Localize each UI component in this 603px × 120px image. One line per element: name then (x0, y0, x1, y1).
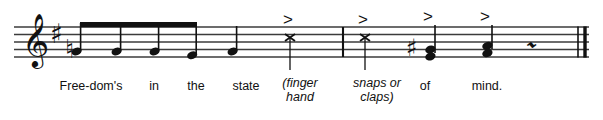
note-8-sharp-accidental: ♯ (406, 34, 418, 62)
natural-accidental: ♮ (65, 34, 74, 64)
lyric-syllable-5: of (420, 79, 430, 93)
lyric-syllable-6: mind. (472, 79, 503, 93)
accent-mark-3: > (423, 7, 433, 26)
performance-note-snaps-claps-line2: claps) (353, 90, 401, 104)
lyric-syllable-3: the (187, 79, 204, 93)
performance-note-finger-hand: (finger hand (282, 76, 317, 104)
performance-note-finger-hand-line1: (finger (282, 76, 317, 90)
accent-mark-1: > (283, 10, 293, 29)
beam-bar (80, 22, 197, 27)
performance-note-finger-hand-line2: hand (282, 90, 317, 104)
lyric-syllable-2: in (149, 79, 159, 93)
lyric-syllable-1: Free-dom's (60, 79, 123, 93)
accent-mark-2: > (358, 10, 368, 29)
treble-clef: 𝄞 (22, 13, 49, 69)
key-signature-sharp: ♯ (50, 18, 63, 49)
lyric-syllable-4: state (232, 79, 259, 93)
performance-note-snaps-claps-line1: snaps or (353, 76, 401, 90)
performance-note-snaps-claps: snaps or claps) (353, 76, 401, 104)
accent-mark-4: > (480, 7, 490, 26)
